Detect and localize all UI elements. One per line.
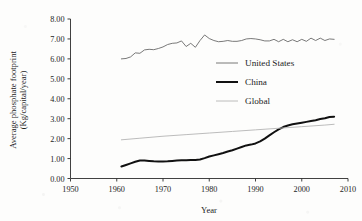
y-tick-label: 2.00 xyxy=(50,135,64,144)
y-tick-label: 6.00 xyxy=(50,55,64,64)
series-line-global xyxy=(121,124,334,140)
x-tick-label: 1990 xyxy=(247,185,263,194)
chart-legend: United StatesChinaGlobal xyxy=(216,58,295,106)
chart-figure: 0.001.002.003.004.005.006.007.008.00 195… xyxy=(0,0,362,221)
y-axis-ticks: 0.001.002.003.004.005.006.007.008.00 xyxy=(50,15,70,184)
legend-label-global: Global xyxy=(245,96,270,106)
y-tick-label: 8.00 xyxy=(50,15,64,24)
y-tick-label: 3.00 xyxy=(50,115,64,124)
x-tick-label: 1950 xyxy=(62,185,78,194)
y-tick-label: 5.00 xyxy=(50,75,64,84)
line-chart: 0.001.002.003.004.005.006.007.008.00 195… xyxy=(0,0,362,221)
y-tick-label: 1.00 xyxy=(50,155,64,164)
y-axis-title: Average phosphate footprint (Kg/capital/… xyxy=(8,51,28,149)
x-tick-label: 1970 xyxy=(155,185,171,194)
x-tick-label: 1960 xyxy=(109,185,125,194)
x-tick-label: 2000 xyxy=(294,185,310,194)
y-axis-title-line-2: (Kg/capital/year) xyxy=(18,71,28,130)
chart-axes xyxy=(71,19,349,179)
y-tick-label: 0.00 xyxy=(50,175,64,184)
series-line-united-states xyxy=(121,35,334,59)
y-tick-label: 4.00 xyxy=(50,95,64,104)
series-line-china xyxy=(121,117,334,167)
legend-label-china: China xyxy=(245,77,267,87)
x-axis-title: Year xyxy=(201,205,217,215)
y-axis-title-line-1: Average phosphate footprint xyxy=(8,51,18,149)
y-tick-label: 7.00 xyxy=(50,35,64,44)
x-tick-label: 2010 xyxy=(340,185,356,194)
x-tick-label: 1980 xyxy=(201,185,217,194)
x-axis-ticks: 1950196019701980199020002010 xyxy=(62,179,356,194)
legend-label-united-states: United States xyxy=(245,58,295,68)
